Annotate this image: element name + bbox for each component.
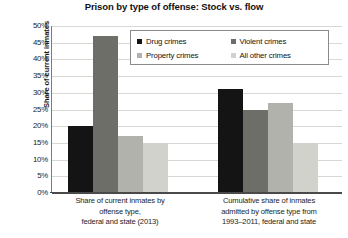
bar xyxy=(243,110,268,194)
bar xyxy=(143,143,168,193)
legend-item-property-crimes: Property crimes xyxy=(137,51,231,60)
legend-row: Property crimes All other crimes xyxy=(137,48,324,62)
bar xyxy=(93,36,118,193)
x-axis-category-line: federal and state (2013) xyxy=(40,217,200,228)
bar xyxy=(268,103,293,193)
x-axis-category-line: admitted by offense type from xyxy=(190,207,348,218)
bar xyxy=(118,136,143,193)
y-tick-label: 45% xyxy=(20,38,48,47)
y-tick-label: 50% xyxy=(20,21,48,30)
x-axis-line xyxy=(50,192,342,193)
bar xyxy=(293,143,318,193)
legend-item-label: Violent crimes xyxy=(240,37,287,46)
y-tick-label: 15% xyxy=(20,138,48,147)
legend-swatch-icon xyxy=(231,39,236,44)
y-tick-label: 20% xyxy=(20,121,48,130)
gridline xyxy=(52,26,342,27)
y-tick-label: 40% xyxy=(20,54,48,63)
y-tick-label: 5% xyxy=(20,171,48,180)
x-axis-category-label: Cumulative share of inmatesadmitted by o… xyxy=(190,196,348,228)
x-axis-category-label: Share of current inmates byoffense type,… xyxy=(40,196,200,228)
y-tick-label: 35% xyxy=(20,71,48,80)
legend-item-violent-crimes: Violent crimes xyxy=(231,37,325,46)
y-tick-label: 25% xyxy=(20,105,48,114)
bar-chart: Prison by type of offense: Stock vs. flo… xyxy=(0,0,348,238)
y-tick-label: 10% xyxy=(20,155,48,164)
legend-item-label: Drug crimes xyxy=(146,37,186,46)
chart-title: Prison by type of offense: Stock vs. flo… xyxy=(0,1,348,12)
x-axis-category-line: 1993–2011, federal and state xyxy=(190,217,348,228)
legend-swatch-icon xyxy=(137,53,142,58)
legend-item-label: All other crimes xyxy=(240,51,291,60)
legend-row: Drug crimes Violent crimes xyxy=(137,34,324,48)
x-axis-category-line: Cumulative share of inmates xyxy=(190,196,348,207)
legend-swatch-icon xyxy=(137,39,142,44)
legend-item-drug-crimes: Drug crimes xyxy=(137,37,231,46)
x-axis-category-line: Share of current inmates by xyxy=(40,196,200,207)
legend-item-label: Property crimes xyxy=(146,51,198,60)
bar xyxy=(218,89,243,193)
legend: Drug crimes Violent crimes Property crim… xyxy=(130,30,329,65)
x-axis-category-line: offense type, xyxy=(40,207,200,218)
legend-item-all-other-crimes: All other crimes xyxy=(231,51,325,60)
legend-swatch-icon xyxy=(231,53,236,58)
y-tick-label: 30% xyxy=(20,88,48,97)
bar xyxy=(68,126,93,193)
y-axis-line xyxy=(51,26,52,193)
